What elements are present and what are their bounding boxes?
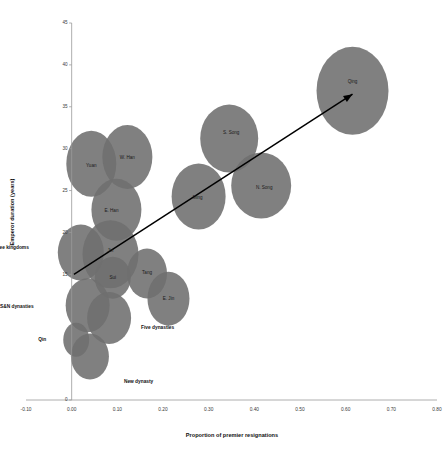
x-tick-label: 0.40 [250,407,260,412]
y-tick-label: 45 [63,20,69,25]
x-tick-label: 0.00 [67,407,77,412]
x-tick-label: 0.70 [387,407,397,412]
bubble-label: Qin [38,337,46,342]
y-tick-label: 40 [63,62,69,67]
bubble-label: Jin [108,248,114,253]
bubble-label: Yuan [86,163,97,168]
x-tick-label: 0.30 [204,407,214,412]
bubble-label: W. Han [120,155,136,160]
y-tick-label: 30 [63,146,69,151]
bubble-label: Ming [193,195,203,200]
bubble-label: Tang [142,270,152,275]
x-axis-title: Proportion of premier resignations [186,432,278,438]
bubble-label: S&N dynasties [0,304,34,309]
bubble-label: New dynasty [124,379,154,384]
x-tick-label: -0.10 [21,407,32,412]
bubble-label: E. Jin [163,296,175,301]
y-tick-label: 0 [65,397,68,402]
bubble-label: S. Song [223,130,240,135]
bubble-label: Five dynasties [141,325,174,330]
bubble-point[interactable] [317,47,389,135]
chart-canvas: 015202530354045-0.100.000.100.200.300.40… [0,0,447,449]
x-tick-label: 0.60 [341,407,351,412]
y-tick-label: 25 [63,188,69,193]
y-axis-title: Emperor duration (years) [9,178,15,245]
bubble-chart: 015202530354045-0.100.000.100.200.300.40… [0,0,447,449]
y-tick-label: 35 [63,104,69,109]
bubble-label: N. Song [256,185,273,190]
bubble-label: Qing [348,79,358,84]
bubble-series [58,47,389,380]
x-tick-label: 0.20 [158,407,168,412]
bubble-point[interactable] [71,333,109,379]
x-tick-label: 0.50 [295,407,305,412]
bubble-label: Sui [109,275,116,280]
y-tick-label: 15 [63,272,69,277]
bubble-label: E. Han [104,208,118,213]
x-tick-label: 0.10 [113,407,123,412]
y-tick-label: 20 [63,230,69,235]
x-tick-label: 0.80 [432,407,442,412]
